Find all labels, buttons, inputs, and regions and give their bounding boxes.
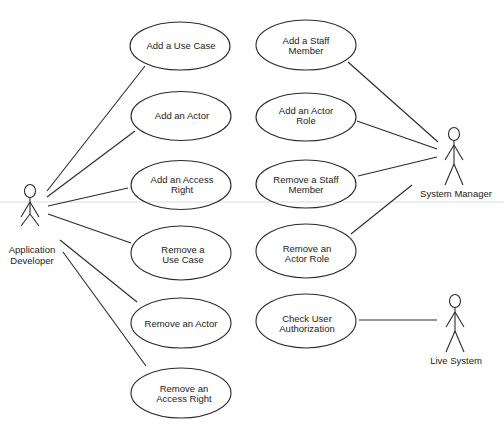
- association-line-sys-mgr-uc7: [348, 62, 438, 142]
- actor-label-application-developer: Application: [9, 244, 55, 255]
- use-case-label: Remove an Actor: [145, 318, 218, 329]
- use-case-label: Authorization: [279, 323, 334, 334]
- association-line-app-dev-uc1: [47, 66, 145, 191]
- use-case-label: Role: [296, 115, 316, 126]
- association-line-sys-mgr-uc10: [351, 185, 412, 234]
- use-case-label: Access Right: [156, 393, 212, 404]
- actor-application-developer-stick-figure-icon[interactable]: [21, 185, 39, 227]
- actor-label-application-developer-line2: Developer: [10, 255, 53, 266]
- association-line-app-dev-uc4: [48, 214, 131, 243]
- use-case-label: Member: [289, 184, 324, 195]
- actor-system-manager-stick-figure-icon[interactable]: [445, 128, 463, 186]
- association-line-app-dev-uc6: [63, 252, 146, 366]
- association-line-app-dev-uc2: [47, 131, 135, 197]
- actor-label-system-manager: System Manager: [420, 188, 492, 199]
- use-case-label: Right: [171, 184, 194, 195]
- use-case-label: Add an Actor: [155, 110, 209, 121]
- association-line-sys-mgr-uc8: [357, 121, 437, 149]
- actor-live-system-stick-figure-icon[interactable]: [446, 295, 464, 353]
- association-line-app-dev-uc5: [60, 240, 137, 302]
- use-case-label: Actor Role: [285, 253, 329, 264]
- use-case-label: Use Case: [162, 254, 204, 265]
- actor-label-live-system: Live System: [430, 355, 482, 366]
- use-case-label: Add a Use Case: [146, 40, 215, 51]
- use-case-label: Member: [289, 45, 324, 56]
- association-line-app-dev-uc3: [48, 188, 128, 206]
- use-case-diagram: Application Developer System Manager Liv…: [0, 0, 504, 426]
- association-line-sys-mgr-uc9: [358, 157, 437, 176]
